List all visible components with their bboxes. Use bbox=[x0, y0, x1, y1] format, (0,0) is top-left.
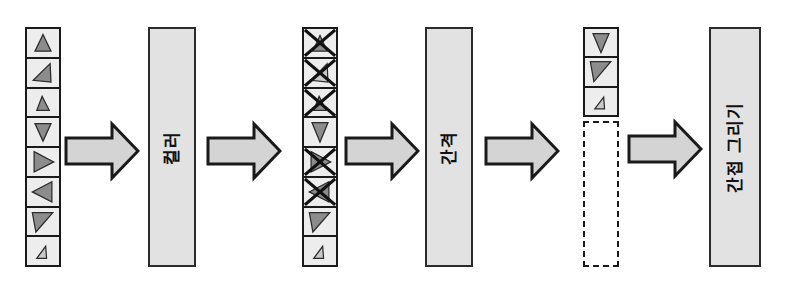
list-item[interactable] bbox=[585, 29, 617, 58]
process-label-spacing: 간격 bbox=[441, 130, 458, 164]
process-label-indirect-draw: 간접 그리기 bbox=[727, 102, 744, 193]
list-item[interactable] bbox=[304, 208, 336, 238]
process-label-color: 컬러 bbox=[164, 130, 181, 164]
triangle-left-down-icon bbox=[27, 59, 59, 87]
right-arrow-icon bbox=[64, 120, 140, 182]
process-box-spacing[interactable]: 간격 bbox=[425, 27, 473, 267]
right-arrow-icon bbox=[484, 120, 560, 182]
triangle-up-small-icon bbox=[27, 89, 59, 117]
list-item[interactable] bbox=[585, 58, 617, 87]
right-arrow-icon bbox=[627, 118, 703, 180]
right-arrow-icon bbox=[344, 120, 420, 182]
list-item[interactable] bbox=[304, 178, 336, 208]
arrow-4 bbox=[484, 120, 560, 182]
triangle-tiny-icon bbox=[27, 237, 59, 265]
list-item[interactable] bbox=[304, 89, 336, 119]
arrow-5 bbox=[627, 118, 703, 180]
arrow-3 bbox=[344, 120, 420, 182]
list-item[interactable] bbox=[27, 89, 59, 119]
triangle-down-icon bbox=[304, 118, 336, 146]
triangle-down-right-icon bbox=[27, 208, 59, 236]
list-item[interactable] bbox=[304, 148, 336, 178]
right-arrow-icon bbox=[206, 120, 282, 182]
triangle-down-icon bbox=[27, 118, 59, 146]
strikeout-x-icon bbox=[304, 178, 336, 206]
list-item[interactable] bbox=[304, 237, 336, 265]
triangle-left-icon bbox=[27, 178, 59, 206]
list-item[interactable] bbox=[585, 88, 617, 115]
strikeout-x-icon bbox=[304, 29, 336, 57]
triangle-down-icon bbox=[585, 29, 617, 56]
list-item[interactable] bbox=[27, 237, 59, 265]
empty-slot-placeholder bbox=[583, 121, 619, 267]
process-box-indirect-draw[interactable]: 간접 그리기 bbox=[709, 27, 761, 267]
compacted-triangle-list bbox=[583, 27, 619, 117]
strikeout-x-icon bbox=[304, 59, 336, 87]
triangle-down-right-icon bbox=[304, 208, 336, 236]
strikeout-x-icon bbox=[304, 148, 336, 176]
triangle-down-right-icon bbox=[585, 58, 617, 85]
list-item[interactable] bbox=[27, 59, 59, 89]
list-item[interactable] bbox=[304, 29, 336, 59]
list-item[interactable] bbox=[27, 29, 59, 59]
arrow-1 bbox=[64, 120, 140, 182]
triangle-tiny-icon bbox=[585, 88, 617, 115]
list-item[interactable] bbox=[27, 118, 59, 148]
arrow-2 bbox=[206, 120, 282, 182]
diagram-canvas: 컬러 bbox=[0, 0, 786, 290]
list-item[interactable] bbox=[27, 178, 59, 208]
triangle-tiny-icon bbox=[304, 237, 336, 265]
list-item[interactable] bbox=[304, 59, 336, 89]
input-triangle-list bbox=[25, 27, 61, 267]
list-item[interactable] bbox=[27, 208, 59, 238]
list-item[interactable] bbox=[27, 148, 59, 178]
list-item[interactable] bbox=[304, 118, 336, 148]
process-box-color[interactable]: 컬러 bbox=[148, 27, 196, 267]
strikeout-x-icon bbox=[304, 89, 336, 117]
triangle-up-icon bbox=[27, 29, 59, 57]
triangle-right-icon bbox=[27, 148, 59, 176]
culled-triangle-list bbox=[302, 27, 338, 267]
